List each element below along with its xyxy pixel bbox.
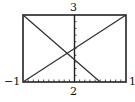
plot-area: [0, 0, 135, 102]
descending-line: [23, 15, 100, 82]
y-max-label: 3: [70, 2, 77, 13]
y-min-label: 2: [70, 86, 77, 97]
x-max-label: 1: [129, 76, 135, 87]
x-min-label: −1: [4, 76, 20, 87]
